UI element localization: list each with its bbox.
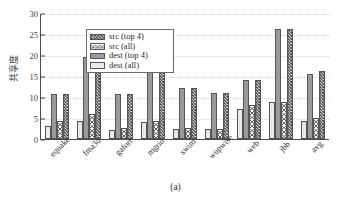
bar-group <box>233 14 265 139</box>
y-tick-label: 30 <box>30 9 39 19</box>
x-label-cell: fma3d <box>72 142 104 180</box>
x-label-cell: mgrid <box>136 142 168 180</box>
legend-item: dest (all) <box>90 61 170 71</box>
x-label-cell: web <box>233 142 265 180</box>
x-tick-mark <box>249 136 250 140</box>
x-tick-label: avg <box>309 139 325 155</box>
legend-swatch-dest-all-icon <box>90 62 105 69</box>
plot-area: 051015202530 src (top 4) src (all) dest … <box>40 14 329 140</box>
bar <box>319 71 325 139</box>
x-label-cell: gafort <box>104 142 136 180</box>
y-tick-label: 15 <box>30 72 39 82</box>
y-tick-label: 0 <box>34 135 38 145</box>
bar-group <box>297 14 329 139</box>
y-tick-label: 10 <box>30 93 39 103</box>
bar <box>63 94 69 139</box>
x-tick-mark <box>185 136 186 140</box>
figure-caption: (a) <box>0 182 351 192</box>
bar-group <box>201 14 233 139</box>
bar <box>191 88 197 139</box>
x-tick-mark <box>217 136 218 140</box>
x-label-cell: equake <box>40 142 72 180</box>
x-label-cell: wupwise <box>201 142 233 180</box>
y-tick-label: 25 <box>30 30 39 40</box>
x-tick-mark <box>89 136 90 140</box>
x-label-cell: avg <box>297 142 329 180</box>
x-label-cell: swim <box>168 142 200 180</box>
legend-swatch-src-top4-icon <box>90 34 105 41</box>
x-axis-labels: equakefma3dgafortmgridswimwupwisewebjbba… <box>40 142 329 180</box>
x-label-cell: jbb <box>265 142 297 180</box>
y-tick-label: 20 <box>30 51 39 61</box>
y-axis-title: 共享度 <box>7 39 20 99</box>
x-tick-mark <box>153 136 154 140</box>
bar <box>287 29 293 139</box>
legend-label: dest (all) <box>109 61 139 71</box>
x-tick-label: jbb <box>277 139 292 154</box>
y-tick-mark <box>41 140 45 141</box>
chart-legend: src (top 4) src (all) dest (top 4) dest … <box>86 29 174 73</box>
bar-group <box>41 14 73 139</box>
x-tick-mark <box>313 136 314 140</box>
x-tick-label: web <box>244 138 261 155</box>
legend-swatch-src-all-icon <box>90 43 105 50</box>
bar-group <box>265 14 297 139</box>
bar <box>127 94 133 139</box>
figure-panel-a: 共享度 051015202530 src (top 4) src (all) d… <box>0 0 351 202</box>
bar-groups <box>41 14 329 139</box>
x-tick-mark <box>281 136 282 140</box>
x-tick-mark <box>57 136 58 140</box>
x-tick-mark <box>121 136 122 140</box>
legend-swatch-dest-top4-icon <box>90 53 105 60</box>
y-tick-label: 5 <box>34 114 38 124</box>
bar <box>255 80 261 139</box>
